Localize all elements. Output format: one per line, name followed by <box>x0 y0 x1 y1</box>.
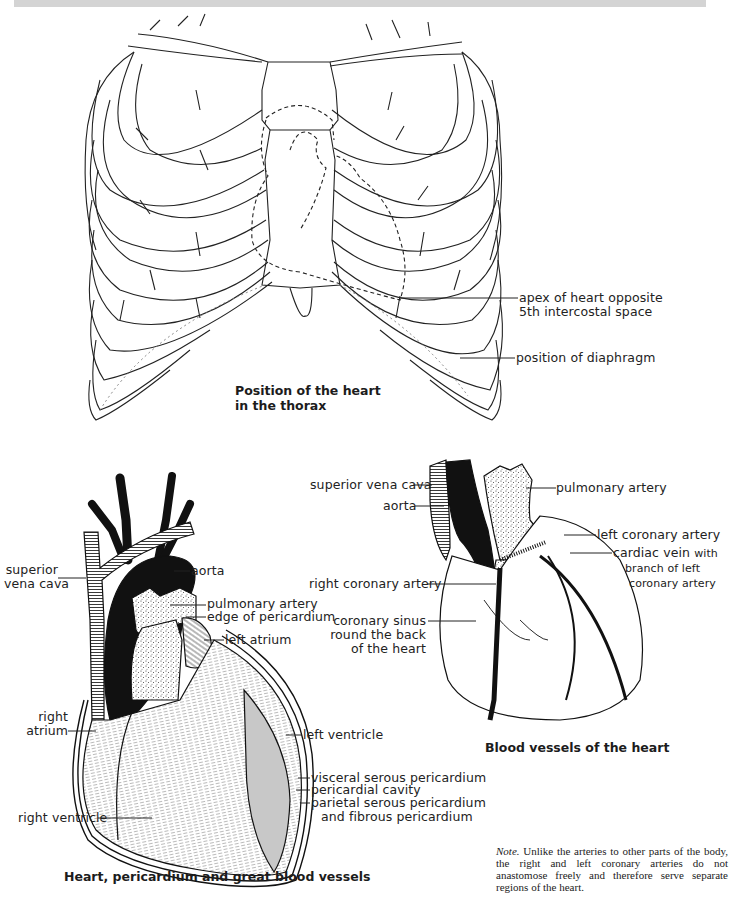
label-coronary-sinus: coronary sinus round the back of the hea… <box>330 614 426 656</box>
label-apex-of-heart: apex of heart opposite 5th intercostal s… <box>519 291 663 319</box>
label-line: round the back <box>330 628 426 642</box>
label-edge-of-pericardium: edge of pericardium <box>207 610 335 624</box>
label-pulmonary-artery-right: pulmonary artery <box>556 481 667 495</box>
label-line: branch of left <box>625 562 700 575</box>
label-position-of-diaphragm: position of diaphragm <box>516 351 655 365</box>
label-aorta-left: aorta <box>191 564 225 578</box>
label-line: right <box>14 710 68 724</box>
caption-position-of-heart: Position of the heart in the thorax <box>235 383 381 413</box>
label-line: with <box>694 547 718 560</box>
label-line: apex of heart opposite <box>519 291 663 305</box>
label-line: atrium <box>14 724 68 738</box>
label-superior-vena-cava-right: superior vena cava <box>310 478 431 492</box>
label-superior-vena-cava-left: superior vena cava <box>4 563 58 591</box>
label-line: cardiac vein <box>613 545 690 560</box>
caption-line: Position of the heart <box>235 383 381 398</box>
caption-heart-pericardium: Heart, pericardium and great blood vesse… <box>64 869 370 884</box>
label-left-coronary-artery: left coronary artery <box>597 528 720 542</box>
label-right-atrium: right atrium <box>14 710 68 738</box>
label-line: vena cava <box>4 577 58 591</box>
label-right-coronary-artery: right coronary artery <box>309 577 442 591</box>
label-left-atrium: left atrium <box>225 633 292 647</box>
label-line: parietal serous pericardium <box>311 796 486 810</box>
label-line: and fibrous pericardium <box>311 810 486 824</box>
label-aorta-right: aorta <box>383 499 417 513</box>
label-left-ventricle: left ventricle <box>303 728 383 742</box>
label-line: 5th intercostal space <box>519 305 663 319</box>
label-cardiac-vein: cardiac vein with branch of left coronar… <box>613 546 718 591</box>
note-paragraph: Note. Unlike the arteries to other parts… <box>496 845 728 893</box>
label-line: superior <box>4 563 58 577</box>
label-line: coronary sinus <box>330 614 426 628</box>
caption-line: in the thorax <box>235 398 381 413</box>
note-lead: Note. <box>496 845 520 857</box>
label-line: of the heart <box>330 642 426 656</box>
label-right-ventricle: right ventricle <box>18 811 107 825</box>
caption-blood-vessels: Blood vessels of the heart <box>485 740 669 755</box>
label-line: coronary artery <box>629 577 716 590</box>
note-body: Unlike the arteries to other parts of th… <box>496 845 728 893</box>
label-parietal-serous-pericardium: parietal serous pericardium and fibrous … <box>311 796 486 824</box>
